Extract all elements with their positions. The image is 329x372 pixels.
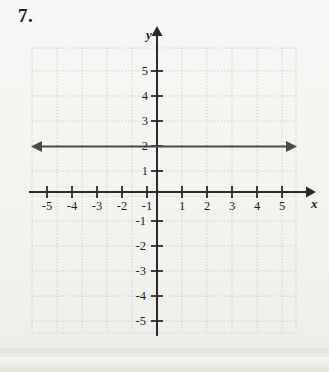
- x-axis-label: x: [311, 196, 318, 212]
- x-tick-label-1: 1: [172, 199, 192, 214]
- coordinate-graph: -5 -4 -3 -2 -1 1 2 3 4 5 5 4 3 2 1 -1 -2…: [0, 0, 329, 372]
- y-tick-label--2: -2: [124, 239, 146, 254]
- y-tick-label-5: 5: [126, 64, 148, 79]
- y-tick-label-3: 3: [126, 114, 148, 129]
- y-tick-label-4: 4: [126, 89, 148, 104]
- worksheet-page: 7.: [0, 0, 329, 372]
- x-tick-label--1: -1: [137, 199, 157, 214]
- x-tick-label-3: 3: [222, 199, 242, 214]
- x-tick-label-2: 2: [197, 199, 217, 214]
- y-tick-label--3: -3: [124, 264, 146, 279]
- x-tick-label--2: -2: [112, 199, 132, 214]
- x-tick-label-4: 4: [247, 199, 267, 214]
- y-axis-label: y: [146, 27, 152, 43]
- y-tick-label--1: -1: [124, 214, 146, 229]
- x-tick-label--3: -3: [87, 199, 107, 214]
- x-tick-label-5: 5: [272, 199, 292, 214]
- y-axis: [152, 26, 163, 336]
- x-tick-label--5: -5: [37, 199, 57, 214]
- y-tick-label-2: 2: [126, 139, 148, 154]
- y-tick-label--5: -5: [124, 314, 146, 329]
- y-tick-label-1: 1: [126, 164, 148, 179]
- x-tick-label--4: -4: [62, 199, 82, 214]
- y-tick-label--4: -4: [124, 289, 146, 304]
